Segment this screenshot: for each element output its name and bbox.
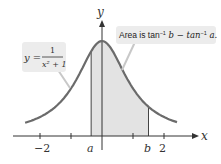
equation-denominator: x² + 1 [42, 60, 67, 69]
tick-label-2: 2 [159, 142, 166, 155]
x-axis-arrow-icon [192, 133, 199, 139]
y-axis-arrow-icon [99, 20, 105, 27]
shaded-area [91, 41, 148, 136]
tick-label-neg2: −2 [34, 142, 50, 155]
arctan-area-figure: x y −2 2 a b y = 1 x² + 1 Area is tan−1 … [0, 0, 221, 164]
diagram: x y −2 2 a b y = 1 x² + 1 Area is tan−1 … [0, 0, 221, 164]
x-axis-label: x [201, 129, 208, 143]
area-callout-pointer [122, 42, 135, 70]
equation-callout-pointer [58, 70, 70, 88]
b-label: b [144, 142, 151, 155]
equation-lhs: y = [23, 52, 41, 63]
y-axis-label: y [96, 5, 104, 19]
equation-numerator: 1 [50, 46, 55, 55]
a-label: a [87, 142, 94, 155]
